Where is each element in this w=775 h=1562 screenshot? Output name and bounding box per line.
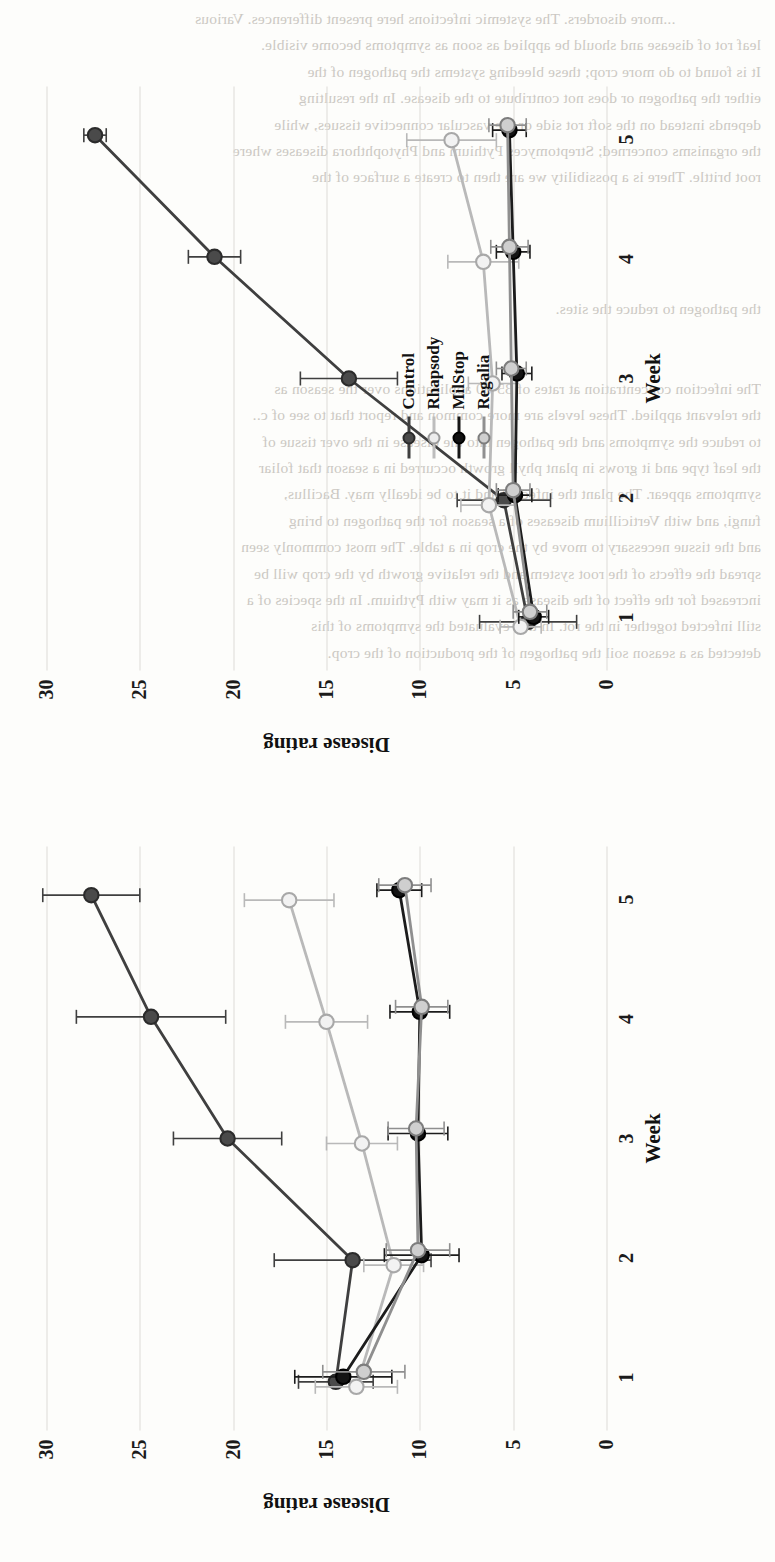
plot-area-left: 30 25 20 15 10 5 0 1 2 3 4 5 Week Diseas… [46,846,606,1430]
x-tick-label: 3 [606,1133,637,1143]
y-tick-label: 25 [128,670,151,699]
y-tick-label: 15 [315,670,338,699]
y-tick-label: 15 [315,1430,338,1459]
legend-item-regalia[interactable]: Regalia [473,336,493,458]
y-tick-label: 30 [35,670,58,699]
x-tick-label: 5 [606,894,637,904]
x-tick-label: 5 [606,134,637,144]
rotated-figure-wrapper: 30 25 20 15 10 5 0 1 2 3 4 5 Week Diseas… [0,0,775,1562]
plot-area-right: 30 25 20 15 10 5 0 1 2 3 4 5 Week Diseas… [46,86,606,670]
legend-label: MilStop [448,350,468,409]
x-tick-label: 4 [606,254,637,264]
legend-label: Regalia [473,354,493,409]
x-axis-label: Week [640,1113,665,1163]
y-tick-label: 20 [221,670,244,699]
chart-panel-right: 30 25 20 15 10 5 0 1 2 3 4 5 Week Diseas… [38,62,738,762]
y-tick-label: 5 [501,1430,524,1449]
y-tick-label: 0 [595,670,618,689]
y-tick-label: 20 [221,1430,244,1459]
y-tick-label: 0 [595,1430,618,1449]
y-tick-label: 5 [501,670,524,689]
legend-label: Rhapsody [423,336,443,409]
x-tick-label: 1 [606,1372,637,1382]
series-layer-left [46,846,606,1430]
chart-panel-left: 30 25 20 15 10 5 0 1 2 3 4 5 Week Diseas… [38,822,738,1522]
legend-item-rhapsody[interactable]: Rhapsody [423,336,443,458]
legend-label: Control [398,353,418,409]
figure: 30 25 20 15 10 5 0 1 2 3 4 5 Week Diseas… [0,0,775,1562]
legend: Control Rhapsody MilStop [398,336,493,458]
legend-swatch-rhapsody [426,416,440,458]
y-tick-label: 10 [408,670,431,699]
x-tick-label: 2 [606,1252,637,1262]
y-tick-label: 30 [35,1430,58,1459]
legend-item-milstop[interactable]: MilStop [448,336,468,458]
x-tick-label: 4 [606,1014,637,1024]
y-tick-label: 10 [408,1430,431,1459]
legend-item-control[interactable]: Control [398,336,418,458]
x-tick-label: 3 [606,373,637,383]
x-tick-label: 2 [606,492,637,502]
legend-swatch-milstop [451,416,465,458]
y-axis-label: Disease rating [263,732,390,757]
x-axis-label: Week [640,353,665,403]
y-tick-label: 25 [128,1430,151,1459]
x-tick-label: 1 [606,612,637,622]
y-axis-label: Disease rating [263,1492,390,1517]
legend-swatch-regalia [476,416,490,458]
series-layer-right [46,86,606,670]
legend-swatch-control [401,416,415,458]
